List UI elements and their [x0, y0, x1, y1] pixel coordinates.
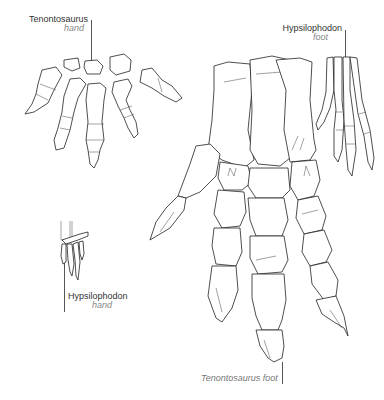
hypsilophodon-foot-drawing [316, 57, 374, 176]
tenontosaurus-foot-drawing [150, 56, 348, 362]
hypsilophodon-hand-drawing [61, 221, 88, 280]
tenontosaurus-hand-drawing [25, 54, 182, 168]
skeletal-illustration [0, 0, 384, 400]
